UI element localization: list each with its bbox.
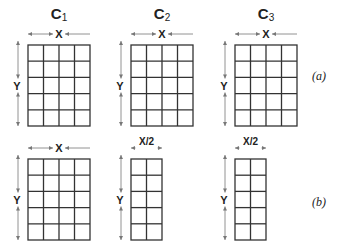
grid-partition-diagram: C1XYC2XYC3XY(a)XYX/2YX/2Y(b) — [0, 0, 338, 252]
cell-grid — [131, 45, 193, 126]
height-label: Y — [116, 194, 124, 206]
figure-row-a: C1XYC2XYC3XY(a) — [13, 5, 326, 126]
cell-grid — [28, 159, 90, 240]
panel-title: C3 — [258, 5, 275, 23]
cell-grid — [28, 45, 90, 126]
width-label: X — [262, 28, 270, 40]
panel-title: C1 — [51, 5, 68, 23]
height-label: Y — [13, 80, 21, 92]
row-caption: (b) — [312, 195, 326, 209]
height-label: Y — [116, 80, 124, 92]
panel-a-1: C1XY — [13, 5, 90, 126]
width-label: X — [55, 28, 63, 40]
panel-a-2: C2XY — [116, 5, 193, 126]
figure-row-b: XYX/2YX/2Y(b) — [13, 136, 326, 240]
panel-b-1: XY — [13, 142, 90, 240]
width-label: X — [55, 142, 63, 154]
panel-b-2: X/2Y — [116, 136, 162, 240]
cell-grid — [131, 159, 162, 240]
height-label: Y — [13, 194, 21, 206]
row-caption: (a) — [312, 69, 326, 83]
cell-grid — [235, 45, 297, 126]
width-label: X/2 — [139, 136, 154, 147]
panel-b-3: X/2Y — [220, 136, 266, 240]
width-label: X/2 — [243, 136, 258, 147]
panel-a-3: C3XY — [220, 5, 297, 126]
height-label: Y — [220, 80, 228, 92]
panel-title: C2 — [154, 5, 171, 23]
cell-grid — [235, 159, 266, 240]
width-label: X — [158, 28, 166, 40]
height-label: Y — [220, 194, 228, 206]
